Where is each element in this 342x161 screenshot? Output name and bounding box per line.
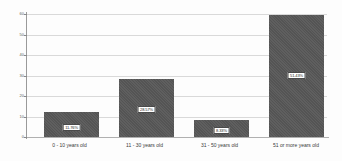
ytick-mark-50 [24, 35, 27, 36]
bar-value-label: 51.43% [287, 72, 306, 79]
ytick-mark-40 [24, 55, 27, 56]
bar-0-10-years-old[interactable]: 11.76% [44, 112, 99, 137]
bar-chart: 60 50 40 30 20 10 0 11.76% 28.57% 8.33% [0, 0, 342, 161]
ytick-label-10: 10 [8, 115, 24, 119]
ytick-label-50: 50 [8, 33, 24, 37]
ytick-mark-30 [24, 76, 27, 77]
bar-value-label: 11.76% [62, 124, 81, 131]
ytick-mark-0 [24, 137, 27, 138]
x-axis-line [26, 137, 329, 138]
category-label-1: 11 - 30 years old [102, 142, 187, 148]
ytick-label-30: 30 [8, 74, 24, 78]
bar-value-label: 8.33% [213, 127, 230, 134]
category-label-0: 0 - 10 years old [27, 142, 112, 148]
bar-11-30-years-old[interactable]: 28.57% [119, 79, 174, 137]
ytick-label-60: 60 [8, 12, 24, 16]
ytick-label-0: 0 [8, 135, 24, 139]
category-label-3: 51 or more years old [250, 142, 342, 148]
ytick-label-20: 20 [8, 94, 24, 98]
ytick-mark-60 [24, 14, 27, 15]
bar-51-or-more-years-old[interactable]: 51.43% [269, 15, 324, 137]
ytick-mark-20 [24, 96, 27, 97]
ytick-mark-10 [24, 117, 27, 118]
bar-value-label: 28.57% [137, 106, 156, 113]
bar-31-50-years-old[interactable]: 8.33% [194, 120, 249, 137]
plot-area: 60 50 40 30 20 10 0 11.76% 28.57% 8.33% [27, 14, 327, 137]
ytick-label-40: 40 [8, 53, 24, 57]
